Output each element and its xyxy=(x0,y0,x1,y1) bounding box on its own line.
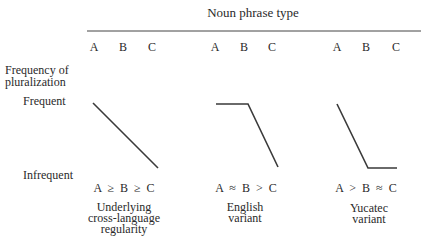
line-underlying xyxy=(93,103,158,168)
col2-label-b: B xyxy=(240,41,248,54)
col2-label-c: C xyxy=(268,41,276,54)
col1-label-c: C xyxy=(148,41,156,54)
formula-underlying: A ≥ B ≥ C xyxy=(93,182,154,195)
caption-underlying-line3: regularity xyxy=(101,223,148,236)
caption-yucatec-line2: variant xyxy=(352,213,385,226)
line-english xyxy=(216,104,278,167)
col1-label-a: A xyxy=(90,41,99,54)
formula-english: A ≈ B > C xyxy=(215,182,276,195)
y-axis-title-line2: pluralization xyxy=(5,76,66,89)
formula-yucatec: A > B ≈ C xyxy=(335,182,396,195)
line-yucatec xyxy=(337,104,397,168)
col3-label-c: C xyxy=(392,41,400,54)
col3-label-a: A xyxy=(333,41,342,54)
col2-label-a: A xyxy=(211,41,220,54)
y-axis-infrequent: Infrequent xyxy=(23,169,73,182)
caption-english-line2: variant xyxy=(228,212,261,225)
col3-label-b: B xyxy=(362,41,370,54)
y-axis-frequent: Frequent xyxy=(23,95,66,108)
col1-label-b: B xyxy=(119,41,127,54)
